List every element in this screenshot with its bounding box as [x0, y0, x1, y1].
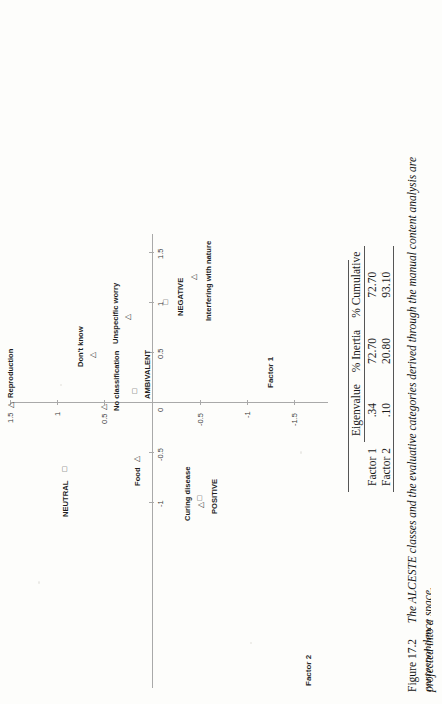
- data-point-label: AMBIVALENT: [143, 350, 152, 399]
- y-tick-neg05: [200, 400, 201, 405]
- table-cell-eigenvalue: .34: [365, 378, 380, 442]
- x-tick-neg05: [149, 452, 154, 453]
- figure-caption: Figure 17.2 The ALCESTE classes and the …: [404, 132, 437, 692]
- data-point-label: POSITIVE: [210, 479, 219, 514]
- y-axis-label: Factor 2: [304, 655, 313, 686]
- y-tick-label-neg1: -1: [243, 411, 252, 418]
- eigenvalue-table: Eigenvalue % Inertia % Cumulative Factor…: [348, 260, 394, 492]
- triangle-marker: △: [190, 274, 198, 280]
- y-tick-label-1: 1: [53, 412, 62, 416]
- x-tick-label-15: 1.5: [156, 249, 165, 259]
- scanned-page: -1 -0.5 0 0.5 1 1.5 1.5 1 0.5 -0.5 -1 -1…: [0, 0, 442, 704]
- x-tick-label-05: 0.5: [156, 349, 165, 359]
- table-cell-inertia: 20.80: [379, 324, 394, 378]
- data-point-label: Unspecific worry: [111, 283, 120, 344]
- data-point-label: Don't know: [76, 326, 85, 367]
- square-marker: □: [61, 467, 69, 472]
- table-column-header-blank: [349, 442, 365, 492]
- table-cell-cumulative: 72.70: [365, 246, 380, 324]
- y-tick-label-05: 0.5: [100, 414, 109, 424]
- table-header-row: Eigenvalue % Inertia % Cumulative: [349, 246, 365, 492]
- triangle-marker: △: [133, 456, 141, 462]
- x-tick-neg1: [149, 502, 154, 503]
- y-tick-label-neg05: -0.5: [196, 413, 205, 426]
- table-cell-eigenvalue: .10: [379, 378, 394, 442]
- triangle-marker: △: [100, 404, 108, 410]
- x-tick-label-0: 0: [156, 408, 165, 412]
- x-axis-label: Factor 1: [266, 357, 275, 388]
- triangle-marker: △: [89, 352, 97, 358]
- x-tick-label-neg1: -1: [156, 500, 165, 507]
- figure-number: Figure 17.2: [406, 639, 418, 692]
- table-column-header-inertia: % Inertia: [349, 324, 365, 378]
- correspondence-analysis-scatter-plot: -1 -0.5 0 0.5 1 1.5 1.5 1 0.5 -0.5 -1 -1…: [4, 218, 334, 688]
- y-tick-1: [57, 400, 58, 405]
- data-point-label: Interfering with nature: [204, 241, 213, 321]
- data-point-label: Curing disease: [183, 467, 192, 521]
- figure-caption-line2: correspondence space.: [422, 132, 431, 692]
- y-tick-label-neg15: -1.5: [290, 413, 299, 426]
- square-marker: □: [196, 496, 204, 501]
- data-point-label: NEUTRAL: [61, 481, 70, 517]
- table-cell-factor-name: Factor 1: [365, 442, 380, 492]
- x-tick-label-neg05: -0.5: [156, 448, 165, 461]
- triangle-marker: △: [124, 314, 132, 320]
- table-row: Factor 1 .34 72.70 72.70: [365, 246, 380, 492]
- y-tick-neg15: [294, 400, 295, 405]
- y-tick-label-15: 1.5: [6, 413, 15, 423]
- triangle-marker: △: [7, 402, 15, 408]
- data-point-label: Reproduction: [6, 349, 15, 398]
- table-cell-inertia: 72.70: [365, 324, 380, 378]
- square-marker: □: [131, 389, 139, 394]
- triangle-marker: △: [197, 502, 205, 508]
- table-row: Factor 2 .10 20.80 93.10: [379, 246, 394, 492]
- data-point-label: Food: [133, 467, 142, 486]
- table-cell-cumulative: 93.10: [379, 246, 394, 324]
- data-point-label: NEGATIVE: [176, 278, 185, 316]
- data-point-label: No classification: [112, 351, 121, 411]
- y-tick-neg1: [247, 400, 248, 405]
- square-marker: □: [162, 300, 170, 305]
- x-tick-1: [149, 302, 154, 303]
- table-column-header-cumulative: % Cumulative: [349, 246, 365, 324]
- table-column-header-eigenvalue: Eigenvalue: [349, 378, 365, 442]
- x-tick-15: [149, 252, 154, 253]
- table-cell-factor-name: Factor 2: [379, 442, 394, 492]
